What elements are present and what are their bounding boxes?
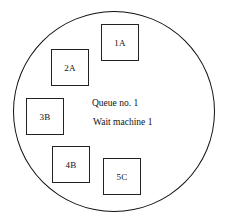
job-label: 1A <box>114 38 126 48</box>
wait-status-label: Wait machine 1 <box>93 117 152 127</box>
job-box-1a: 1A <box>101 24 139 61</box>
job-box-5c: 5C <box>103 158 141 195</box>
job-box-2a: 2A <box>51 49 89 86</box>
job-label: 4B <box>65 160 76 170</box>
queue-label: Queue no. 1 <box>92 98 138 108</box>
job-box-3b: 3B <box>26 98 64 135</box>
job-label: 3B <box>39 112 50 122</box>
job-box-4b: 4B <box>52 146 90 183</box>
job-label: 2A <box>64 63 76 73</box>
job-label: 5C <box>116 172 127 182</box>
